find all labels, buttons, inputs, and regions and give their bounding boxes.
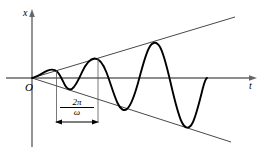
vertical-axis-label: x: [23, 8, 27, 18]
period-label: 2π ω: [60, 98, 94, 117]
oscillation-figure: x t O 2π ω: [0, 0, 262, 156]
origin-label: O: [25, 82, 33, 93]
oscillation-curve: [32, 43, 207, 128]
upper-envelope-line: [32, 17, 235, 78]
period-denominator: ω: [60, 108, 94, 117]
plot-canvas: [0, 0, 262, 156]
horizontal-axis: [6, 75, 257, 81]
horizontal-axis-label: t: [249, 81, 252, 91]
period-dimension-arrow: [55, 120, 99, 125]
